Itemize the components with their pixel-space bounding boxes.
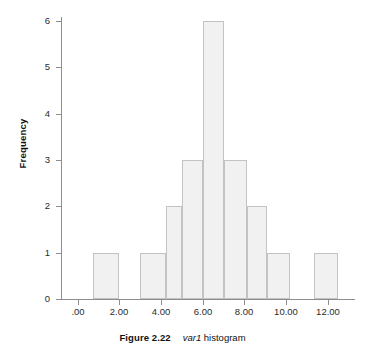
y-tick-mark bbox=[56, 253, 61, 254]
x-tick-mark bbox=[161, 300, 162, 305]
y-tick-mark bbox=[56, 299, 61, 300]
figure-caption-label: Figure 2.22 bbox=[119, 332, 170, 343]
y-axis-line bbox=[61, 17, 62, 300]
y-tick-mark bbox=[56, 114, 61, 115]
histogram-bar bbox=[93, 253, 119, 299]
y-axis-title: Frequency bbox=[17, 104, 28, 184]
x-tick-mark bbox=[119, 300, 120, 305]
x-tick-label: 6.00 bbox=[181, 307, 225, 317]
y-tick-label: 4 bbox=[26, 109, 50, 119]
histogram-bar bbox=[314, 253, 338, 299]
x-tick-mark bbox=[328, 300, 329, 305]
x-tick-label: 4.00 bbox=[139, 307, 183, 317]
figure-caption: Figure 2.22var1 histogram bbox=[0, 332, 365, 344]
y-tick-label: 3 bbox=[26, 155, 50, 165]
x-tick-label: 8.00 bbox=[222, 307, 266, 317]
histogram-bar bbox=[182, 160, 203, 299]
y-tick-label: 2 bbox=[26, 201, 50, 211]
x-tick-label: 10.00 bbox=[264, 307, 308, 317]
y-tick-mark bbox=[56, 206, 61, 207]
y-tick-mark bbox=[56, 21, 61, 22]
y-tick-mark bbox=[56, 67, 61, 68]
y-tick-label: 0 bbox=[26, 294, 50, 304]
x-tick-mark bbox=[286, 300, 287, 305]
y-tick-mark bbox=[56, 160, 61, 161]
x-tick-label: .00 bbox=[56, 307, 100, 317]
histogram-bar bbox=[203, 21, 224, 299]
x-axis-line bbox=[61, 299, 355, 300]
plot-area: 0123456 .002.004.006.008.0010.0012.00 Fr… bbox=[0, 0, 365, 320]
figure-caption-variable: var1 bbox=[183, 332, 201, 343]
figure-caption-rest: histogram bbox=[204, 332, 246, 343]
x-tick-mark bbox=[203, 300, 204, 305]
x-tick-label: 2.00 bbox=[97, 307, 141, 317]
y-tick-label: 1 bbox=[26, 248, 50, 258]
histogram-bar bbox=[224, 160, 247, 299]
histogram-bar bbox=[166, 206, 182, 299]
y-tick-label: 6 bbox=[26, 16, 50, 26]
histogram-bar bbox=[140, 253, 166, 299]
histogram-bar bbox=[267, 253, 290, 299]
x-tick-label: 12.00 bbox=[306, 307, 350, 317]
histogram-figure: 0123456 .002.004.006.008.0010.0012.00 Fr… bbox=[0, 0, 365, 356]
histogram-bar bbox=[247, 206, 268, 299]
x-tick-mark bbox=[78, 300, 79, 305]
y-tick-label: 5 bbox=[26, 62, 50, 72]
x-tick-mark bbox=[244, 300, 245, 305]
